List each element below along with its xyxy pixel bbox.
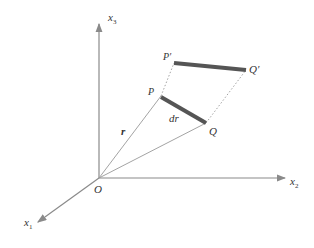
- point-p-prime-label: P′: [162, 51, 172, 62]
- path-p-to-p-prime: [161, 63, 174, 96]
- vector-r-label: r: [121, 125, 126, 137]
- vector-oq-line: [99, 123, 206, 178]
- point-p-label: P: [147, 86, 154, 97]
- x3-label: x3: [107, 11, 117, 26]
- segment-p-prime-q-prime: [174, 63, 246, 70]
- x2-label: x2: [289, 175, 299, 190]
- point-q-prime-label: Q′: [249, 63, 260, 75]
- vector-dr-label: dr: [169, 112, 180, 124]
- vector-r-line: [99, 96, 161, 178]
- diagram-svg: x3 x2 x1 O P Q P′ Q′ r dr: [0, 0, 314, 248]
- point-q-label: Q: [209, 125, 217, 137]
- x1-label: x1: [23, 216, 33, 231]
- segment-pq: [161, 97, 206, 123]
- deformation-diagram: x3 x2 x1 O P Q P′ Q′ r dr: [0, 0, 314, 248]
- origin-label: O: [94, 183, 102, 195]
- x1-axis: [38, 178, 99, 222]
- path-q-to-q-prime: [206, 70, 246, 123]
